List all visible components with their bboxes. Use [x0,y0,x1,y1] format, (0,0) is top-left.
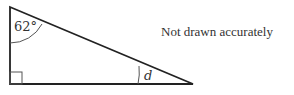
not-drawn-accurately-note: Not drawn accurately [161,24,273,40]
right-angle-marker [10,72,22,84]
triangle-diagram: 62° d [0,0,294,95]
triangle-shape [10,7,193,84]
acute-angle-label: d [144,68,152,83]
top-angle-label: 62° [14,19,37,34]
acute-angle-arc [138,66,139,84]
